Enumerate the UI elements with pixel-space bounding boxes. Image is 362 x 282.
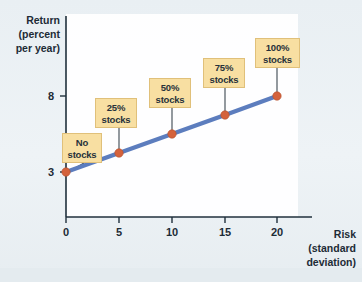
callout-75-percent-stocks: 75% stocks <box>203 58 245 88</box>
callout-75-line2: stocks <box>204 74 244 86</box>
callout-no-stocks-line2: stocks <box>63 149 101 161</box>
data-point-25 <box>115 149 123 157</box>
data-point-100 <box>273 92 281 100</box>
callout-50-line2: stocks <box>150 94 190 106</box>
y-tick-label-3: 3 <box>48 166 54 178</box>
x-axis-title-line-2: (standard <box>308 242 356 254</box>
figure-container: 8 3 0 5 10 15 20 Return (percent per yea… <box>0 0 362 282</box>
x-tick-label-5: 5 <box>116 226 122 238</box>
callout-100-line1: 100% <box>256 42 299 54</box>
callout-no-stocks: No stocks <box>62 133 102 163</box>
x-tick-label-15: 15 <box>219 226 231 238</box>
callout-50-percent-stocks: 50% stocks <box>149 78 191 108</box>
y-axis-title-line-2: (percent <box>19 28 61 40</box>
data-point-no-stocks <box>62 168 70 176</box>
x-axis-title-line-3: deviation) <box>306 256 356 268</box>
callout-50-line1: 50% <box>150 82 190 94</box>
x-tick-label-10: 10 <box>166 226 178 238</box>
y-tick-label-8: 8 <box>48 90 54 102</box>
y-axis-title-line-1: Return <box>26 14 60 26</box>
y-axis-title-line-3: per year) <box>16 42 60 54</box>
callout-no-stocks-line1: No <box>63 137 101 149</box>
x-tick-label-0: 0 <box>63 226 69 238</box>
chart-svg: 8 3 0 5 10 15 20 Return (percent per yea… <box>0 0 362 282</box>
x-tick-label-20: 20 <box>271 226 283 238</box>
callout-25-line1: 25% <box>96 102 136 114</box>
data-point-75 <box>221 111 229 119</box>
callout-25-percent-stocks: 25% stocks <box>95 98 137 128</box>
x-axis-title-line-1: Risk <box>334 228 356 240</box>
callout-100-line2: stocks <box>256 54 299 66</box>
callout-25-line2: stocks <box>96 114 136 126</box>
callout-75-line1: 75% <box>204 62 244 74</box>
page-bottom-band <box>0 268 362 282</box>
data-point-50 <box>168 130 176 138</box>
callout-100-percent-stocks: 100% stocks <box>255 38 300 68</box>
